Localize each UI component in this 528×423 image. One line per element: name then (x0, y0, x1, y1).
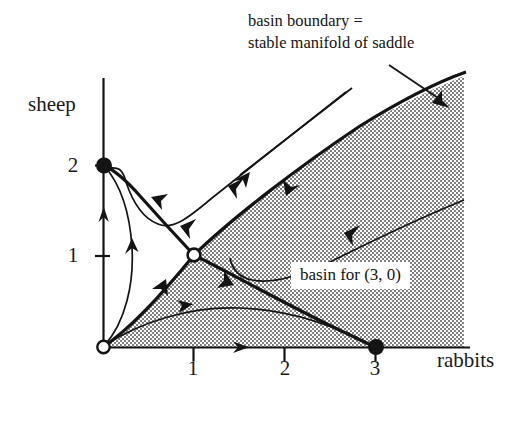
y-tick-label-1: 1 (62, 243, 84, 268)
x-tick-label-1: 1 (182, 356, 204, 381)
basin-shaded-region (100, 70, 468, 350)
y-axis-label: sheep (28, 92, 76, 117)
fixed-point-saddle (188, 249, 201, 262)
unstable-manifold-to-sheep (104, 166, 194, 256)
y-tick-label-2: 2 (62, 153, 84, 178)
x-tick-label-3: 3 (364, 356, 386, 381)
fixed-point-sheep-only (97, 159, 111, 173)
arrowhead-unstable-to-sheep (151, 194, 168, 210)
basin-caption-label: basin for (3, 0) (291, 262, 410, 289)
x-tick-label-2: 2 (274, 356, 296, 381)
fixed-point-origin (97, 341, 109, 353)
annotation-line-2: stable manifold of saddle (248, 32, 414, 54)
basin-boundary-annotation: basin boundary = stable manifold of sadd… (248, 10, 414, 54)
annotation-line-1: basin boundary = (248, 10, 414, 32)
fixed-point-rabbits-only (369, 340, 383, 354)
arrowhead-upper-right-traj-2 (180, 219, 196, 239)
arrowhead-upper-right-traj (228, 178, 244, 199)
phase-portrait-figure: sheep rabbits 2 1 1 2 3 basin boundary =… (0, 0, 528, 423)
x-axis-label: rabbits (437, 348, 494, 373)
